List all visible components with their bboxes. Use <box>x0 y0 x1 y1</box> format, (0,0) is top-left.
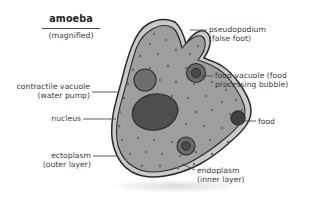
food-vacuole-inner-lower <box>182 142 191 151</box>
label-ectoplasm-line2: (outer layer) <box>0 160 91 169</box>
title-subtitle: (magnified) <box>36 31 106 40</box>
amoeba-diagram-page: amoeba (magnified) pseudopodium (false f… <box>0 0 316 197</box>
label-food-vacuole-line2: processing bubble) <box>215 80 288 89</box>
label-ectoplasm-line1: ectoplasm <box>0 151 91 160</box>
label-contractile-vacuole: contractile vacuole (water pump) <box>0 82 90 101</box>
page-title: amoeba <box>49 13 93 24</box>
food-vacuole-inner-upper <box>191 68 200 77</box>
label-nucleus-line1: nucleus <box>0 114 81 123</box>
title-underline <box>42 28 100 30</box>
label-nucleus: nucleus <box>0 114 81 123</box>
label-endoplasm-line2: (inner layer) <box>197 175 245 184</box>
label-contractile-vacuole-line2: (water pump) <box>0 91 90 100</box>
label-pseudopodium-line1: pseudopodium <box>209 25 266 34</box>
label-food-vacuole: food vacuole (food processing bubble) <box>215 71 288 90</box>
label-endoplasm-line1: endoplasm <box>197 166 245 175</box>
label-contractile-vacuole-line1: contractile vacuole <box>0 82 90 91</box>
label-endoplasm: endoplasm (inner layer) <box>197 166 245 185</box>
label-food: food <box>258 117 275 126</box>
label-pseudopodium-line2: (false foot) <box>209 34 266 43</box>
diagram-title-block: amoeba (magnified) <box>36 7 106 40</box>
label-pseudopodium: pseudopodium (false foot) <box>209 25 266 44</box>
label-ectoplasm: ectoplasm (outer layer) <box>0 151 91 170</box>
contractile-vacuole-organelle <box>134 69 156 91</box>
label-food-vacuole-line1: food vacuole (food <box>215 71 288 80</box>
food-particle <box>231 111 245 125</box>
label-food-line1: food <box>258 117 275 126</box>
